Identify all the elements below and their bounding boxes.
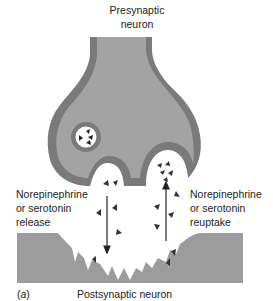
vesicle-lumen [76, 127, 97, 148]
release-label: Norepinephrine or serotonin release [16, 187, 88, 229]
release-label-line1: Norepinephrine [16, 187, 88, 201]
reuptake-arrow [163, 182, 169, 241]
release-arrow [104, 196, 110, 253]
reuptake-label-line1: Norepinephrine [190, 187, 262, 201]
postsynaptic-membrane [17, 233, 243, 283]
synapse-diagram [0, 0, 273, 301]
reuptake-label-line3: reuptake [190, 215, 262, 229]
presynaptic-label-line2: neuron [92, 17, 182, 31]
reuptake-label-line2: or serotonin [190, 201, 262, 215]
reuptake-label: Norepinephrine or serotonin reuptake [190, 187, 262, 229]
postsynaptic-neuron-label: Postsynaptic neuron [77, 287, 172, 301]
panel-label: (a) [17, 287, 30, 301]
panel-label-close: ) [26, 288, 30, 300]
reuptake-transporter [150, 154, 184, 180]
presynaptic-neuron-label: Presynaptic neuron [92, 3, 182, 31]
release-label-line3: release [16, 215, 88, 229]
release-label-line2: or serotonin [16, 201, 88, 215]
presynaptic-label-line1: Presynaptic [92, 3, 182, 17]
